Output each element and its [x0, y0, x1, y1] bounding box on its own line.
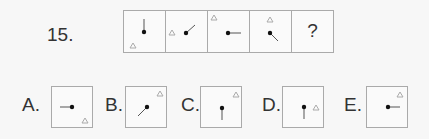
- sequence-strip: ?: [123, 10, 334, 53]
- sequence-cell-1: [124, 11, 166, 52]
- dot-line-down-triangle-right-icon: [283, 87, 323, 127]
- option-a-label: A.: [22, 94, 40, 116]
- option-c-label: C.: [181, 94, 200, 116]
- option-b-label: B.: [105, 94, 123, 116]
- option-c[interactable]: [200, 86, 242, 128]
- option-d-label: D.: [262, 94, 281, 116]
- dot-line-up-triangle-bottom-left-icon: [124, 11, 165, 52]
- sequence-cell-4: [250, 11, 292, 52]
- option-e-label: E.: [344, 94, 362, 116]
- dot-line-down-right-triangle-top-icon: [250, 11, 291, 52]
- sequence-cell-5: ?: [292, 11, 333, 52]
- option-b[interactable]: [125, 86, 167, 128]
- option-e[interactable]: [366, 86, 408, 128]
- dot-line-right-triangle-top-left-icon: [208, 11, 249, 52]
- dot-line-down-left-triangle-top-right-icon: [126, 87, 166, 127]
- question-number: 15.: [47, 24, 73, 46]
- sequence-cell-2: [166, 11, 208, 52]
- question-mark: ?: [292, 20, 333, 42]
- dot-line-left-triangle-bottom-right-icon: [52, 87, 92, 127]
- dot-line-down-triangle-top-right-icon: [201, 87, 241, 127]
- option-d[interactable]: [282, 86, 324, 128]
- dot-line-up-right-triangle-left-icon: [166, 11, 207, 52]
- dot-line-right-triangle-top-right-icon: [367, 87, 407, 127]
- sequence-cell-3: [208, 11, 250, 52]
- option-a[interactable]: [51, 86, 93, 128]
